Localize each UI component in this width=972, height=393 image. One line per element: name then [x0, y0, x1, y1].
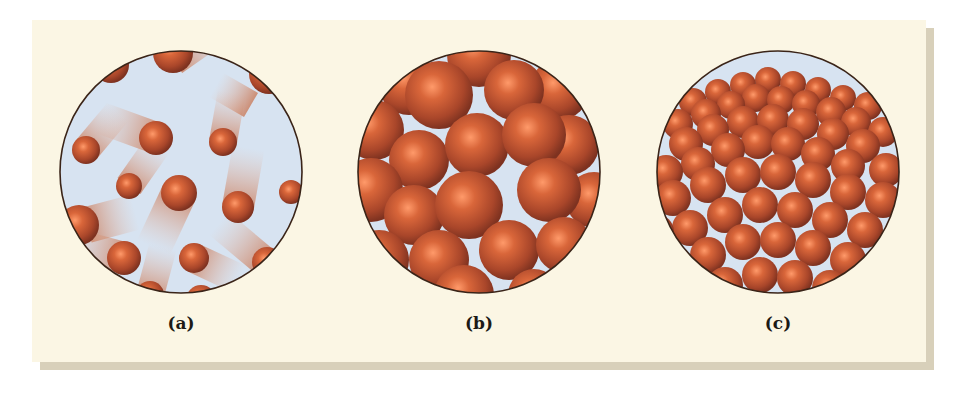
panel-label-b: (b)	[349, 313, 609, 333]
liquid-particles-figure: (b)	[349, 30, 609, 350]
gas-particles-figure: (a)	[51, 30, 311, 350]
gas-circle-illustration	[51, 50, 311, 296]
solid-circle-illustration	[648, 50, 908, 296]
solid-particles-figure: (c)	[648, 30, 908, 350]
panel-label-c: (c)	[648, 313, 908, 333]
liquid-circle-illustration	[349, 50, 609, 296]
panel-label-a: (a)	[51, 313, 311, 333]
